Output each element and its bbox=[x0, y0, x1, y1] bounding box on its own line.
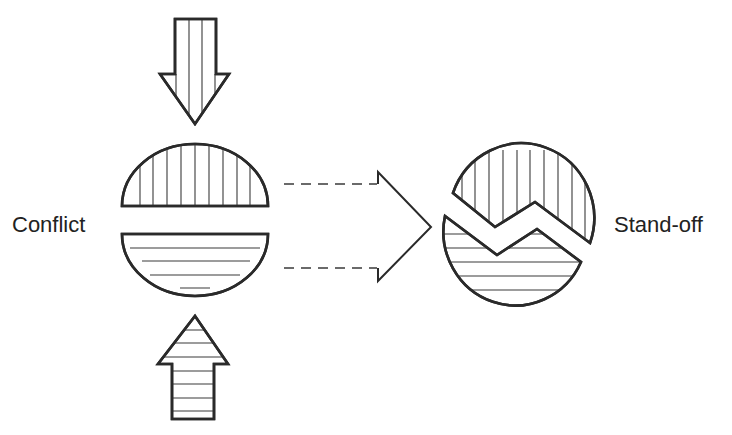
standoff-circle-shape bbox=[440, 143, 600, 305]
bottom-arrow-up-icon bbox=[150, 316, 240, 419]
lower-half-circle-shape bbox=[122, 234, 268, 296]
conflict-standoff-diagram: Conflict Stand-off bbox=[0, 0, 732, 435]
standoff-label: Stand-off bbox=[614, 212, 703, 238]
transition-arrow-right-icon bbox=[284, 172, 431, 281]
top-arrow-down-icon bbox=[160, 19, 229, 124]
upper-half-circle-shape bbox=[122, 140, 268, 206]
conflict-label: Conflict bbox=[12, 212, 85, 238]
